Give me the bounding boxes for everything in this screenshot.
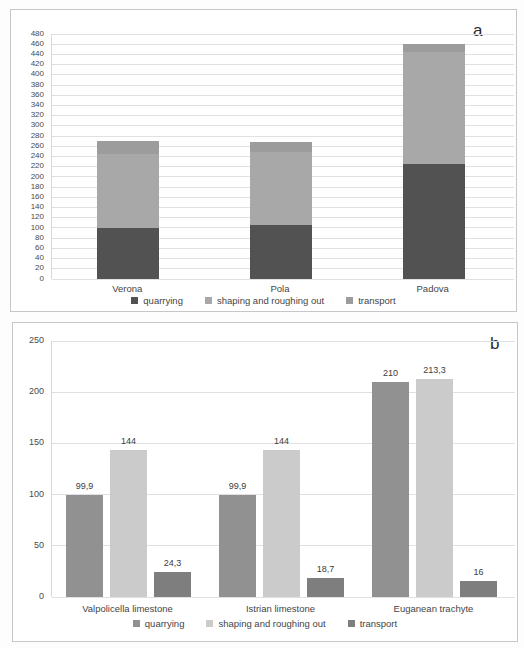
- y-tick-label-240: 240: [11, 152, 44, 160]
- y-tick-label-200: 200: [13, 387, 44, 396]
- bar-shaping-and-roughing-out-istrian-limestone: [263, 450, 300, 597]
- y-tick-label-80: 80: [11, 234, 44, 242]
- y-tick-label-100: 100: [11, 224, 44, 232]
- y-tick-label-440: 440: [11, 50, 44, 58]
- plot-area-b: 99,914424,399,914418,7210213,316: [51, 341, 511, 597]
- legend-chip-quarrying-icon: [131, 297, 138, 304]
- chart-panel-a: a quarryingshaping and roughing outtrans…: [10, 9, 517, 312]
- legend-item-shaping-and-roughing-out: shaping and roughing out: [205, 295, 324, 306]
- y-tick-label-340: 340: [11, 101, 44, 109]
- y-tick-label-100: 100: [13, 490, 44, 499]
- y-tick-label-20: 20: [11, 264, 44, 272]
- legend-item-quarrying: quarrying: [131, 295, 183, 306]
- y-tick-label-460: 460: [11, 40, 44, 48]
- y-tick-label-0: 0: [11, 275, 44, 283]
- y-tick-label-260: 260: [11, 142, 44, 150]
- value-label-shaping-and-roughing-out-istrian-limestone: 144: [247, 436, 316, 446]
- y-tick-label-200: 200: [11, 173, 44, 181]
- gridline-250: [52, 341, 515, 342]
- category-label-verona: Verona: [47, 283, 207, 294]
- category-label-pola: Pola: [200, 283, 360, 294]
- bar-segment-shaping-and-roughing-out-pola: [250, 152, 312, 225]
- bar-quarrying-euganean-trachyte: [372, 382, 409, 597]
- legend-label-quarrying: quarrying: [145, 618, 185, 629]
- figure-two-bar-charts: a quarryingshaping and roughing outtrans…: [0, 0, 524, 648]
- y-tick-label-120: 120: [11, 213, 44, 221]
- legend-chip-shaping-and-roughing-out-icon: [205, 297, 212, 304]
- gridline-480: [52, 34, 514, 35]
- bar-shaping-and-roughing-out-euganean-trachyte: [416, 379, 453, 597]
- legend-item-transport: transport: [346, 295, 396, 306]
- bar-transport-istrian-limestone: [307, 578, 344, 597]
- value-label-transport-istrian-limestone: 18,7: [291, 564, 360, 574]
- y-tick-label-150: 150: [13, 438, 44, 447]
- bar-segment-transport-pola: [250, 142, 312, 152]
- legend-label-transport: transport: [360, 618, 398, 629]
- y-tick-label-180: 180: [11, 183, 44, 191]
- y-tick-label-50: 50: [13, 541, 44, 550]
- legend-chip-transport-icon: [346, 297, 353, 304]
- bar-segment-quarrying-pola: [250, 225, 312, 279]
- bar-segment-transport-verona: [97, 141, 159, 154]
- value-label-quarrying-istrian-limestone: 99,9: [203, 481, 272, 491]
- legend-item-transport: transport: [348, 618, 398, 629]
- y-tick-label-400: 400: [11, 70, 44, 78]
- legend-chip-quarrying-icon: [133, 620, 140, 627]
- legend-item-quarrying: quarrying: [133, 618, 185, 629]
- value-label-transport-valpolicella-limestone: 24,3: [138, 558, 207, 568]
- y-tick-label-40: 40: [11, 254, 44, 262]
- value-label-quarrying-valpolicella-limestone: 99,9: [50, 481, 119, 491]
- category-label-padova: Padova: [353, 283, 513, 294]
- y-tick-label-360: 360: [11, 91, 44, 99]
- y-tick-label-160: 160: [11, 193, 44, 201]
- y-tick-label-140: 140: [11, 203, 44, 211]
- y-tick-label-320: 320: [11, 111, 44, 119]
- bar-segment-quarrying-verona: [97, 228, 159, 279]
- legend-b: quarryingshaping and roughing outtranspo…: [13, 618, 517, 629]
- bar-segment-quarrying-padova: [403, 164, 465, 279]
- bar-transport-valpolicella-limestone: [154, 572, 191, 597]
- bar-segment-transport-padova: [403, 44, 465, 52]
- bar-segment-shaping-and-roughing-out-verona: [97, 154, 159, 228]
- y-tick-label-220: 220: [11, 162, 44, 170]
- legend-label-quarrying: quarrying: [143, 295, 183, 306]
- value-label-shaping-and-roughing-out-valpolicella-limestone: 144: [94, 436, 163, 446]
- bar-quarrying-valpolicella-limestone: [66, 495, 103, 597]
- legend-a: quarryingshaping and roughing outtranspo…: [11, 295, 516, 306]
- plot-area-a: [51, 34, 510, 279]
- legend-label-transport: transport: [358, 295, 396, 306]
- chart-panel-b: b 99,914424,399,914418,7210213,316 quarr…: [12, 322, 518, 642]
- bar-segment-shaping-and-roughing-out-padova: [403, 52, 465, 164]
- legend-chip-transport-icon: [348, 620, 355, 627]
- y-tick-label-300: 300: [11, 121, 44, 129]
- bar-shaping-and-roughing-out-valpolicella-limestone: [110, 450, 147, 597]
- legend-item-shaping-and-roughing-out: shaping and roughing out: [206, 618, 325, 629]
- legend-label-shaping-and-roughing-out: shaping and roughing out: [217, 295, 324, 306]
- y-tick-label-250: 250: [13, 336, 44, 345]
- y-tick-label-420: 420: [11, 60, 44, 68]
- y-tick-label-380: 380: [11, 81, 44, 89]
- y-tick-label-60: 60: [11, 244, 44, 252]
- bar-quarrying-istrian-limestone: [219, 495, 256, 597]
- bar-transport-euganean-trachyte: [460, 581, 497, 597]
- category-label-valpolicella-limestone: Valpolicella limestone: [48, 603, 208, 614]
- category-label-euganean-trachyte: Euganean trachyte: [354, 603, 514, 614]
- y-tick-label-0: 0: [13, 592, 44, 601]
- y-tick-label-480: 480: [11, 30, 44, 38]
- value-label-shaping-and-roughing-out-euganean-trachyte: 213,3: [400, 365, 469, 375]
- legend-chip-shaping-and-roughing-out-icon: [206, 620, 213, 627]
- y-tick-label-280: 280: [11, 132, 44, 140]
- value-label-transport-euganean-trachyte: 16: [444, 567, 513, 577]
- category-label-istrian-limestone: Istrian limestone: [201, 603, 361, 614]
- legend-label-shaping-and-roughing-out: shaping and roughing out: [218, 618, 325, 629]
